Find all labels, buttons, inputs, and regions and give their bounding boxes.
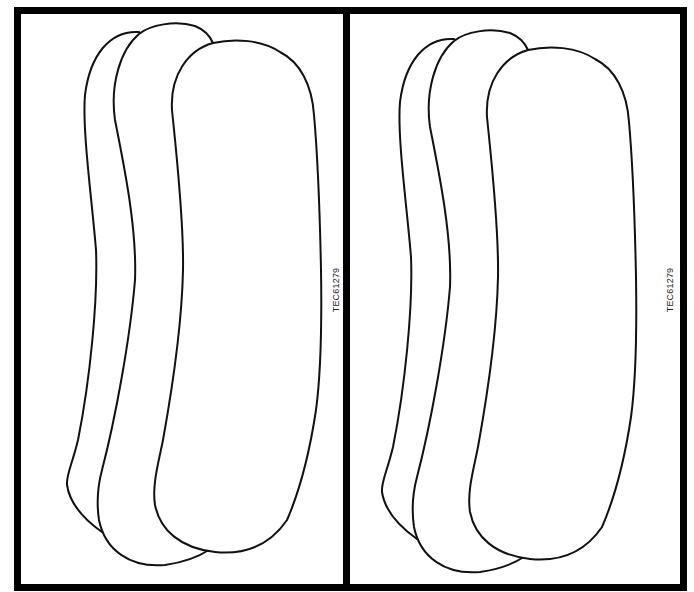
figure-code-label-right: TEC61279 — [665, 268, 675, 313]
left-panel-drawing — [67, 23, 321, 565]
illustration — [0, 0, 694, 592]
figure-code-label-left: TEC61279 — [331, 268, 341, 313]
right-panel-drawing — [382, 30, 636, 572]
